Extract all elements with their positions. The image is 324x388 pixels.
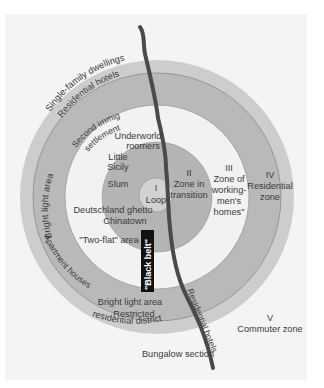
zone-iii-name-1: Zone of [213,174,245,184]
zone-i-name: Loop [146,195,166,205]
bungalow-section-label: Bungalow section [142,349,214,359]
zone-iii-name-3: men's [217,196,242,206]
slum-label: Slum [108,179,129,189]
concentric-zone-diagram: "Black belt" I Loop II Zone in transitio… [0,0,324,388]
zone-v-name: Commuter zone [237,324,302,334]
zone-iii-name-4: homes" [214,207,245,217]
zone-ii-numeral: II [186,168,191,178]
deutschland-ghetto-label: Deutschland ghetto [73,205,152,215]
underworld-label-2: roomers [126,141,160,151]
zone-ii-name-1: Zone in [174,179,205,189]
zone-iv-name-1: Residential [247,181,292,191]
zone-iv-name-2: zone [260,192,280,202]
zone-ii-name-2: transition [170,190,207,200]
two-flat-label: "Two-flat" area [79,235,140,245]
chinatown-label: Chinatown [103,216,146,226]
bright-light-south-label: Bright light area [98,297,163,307]
little-sicily-label-1: Little [108,152,127,162]
zone-iii-numeral: III [225,163,233,173]
zone-iv-numeral: IV [266,170,276,180]
zone-i-numeral: I [155,183,158,193]
zone-iii-name-2: working- [211,185,247,195]
underworld-label-1: Underworld [115,131,162,141]
zone-v-numeral: V [267,313,274,323]
black-belt-label: "Black belt" [143,239,153,290]
little-sicily-label-2: Sicily [107,162,129,172]
